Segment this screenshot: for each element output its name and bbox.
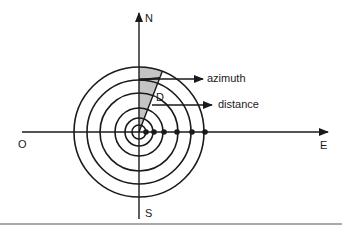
azimuth-label: azimuth bbox=[207, 73, 246, 84]
polar-diagram bbox=[0, 0, 342, 229]
distance-label: distance bbox=[218, 99, 259, 110]
north-label: N bbox=[145, 13, 153, 24]
south-label: S bbox=[145, 208, 152, 219]
d-marker-label: D bbox=[156, 92, 164, 103]
east-label: E bbox=[320, 140, 327, 151]
origin-label: O bbox=[18, 139, 27, 150]
